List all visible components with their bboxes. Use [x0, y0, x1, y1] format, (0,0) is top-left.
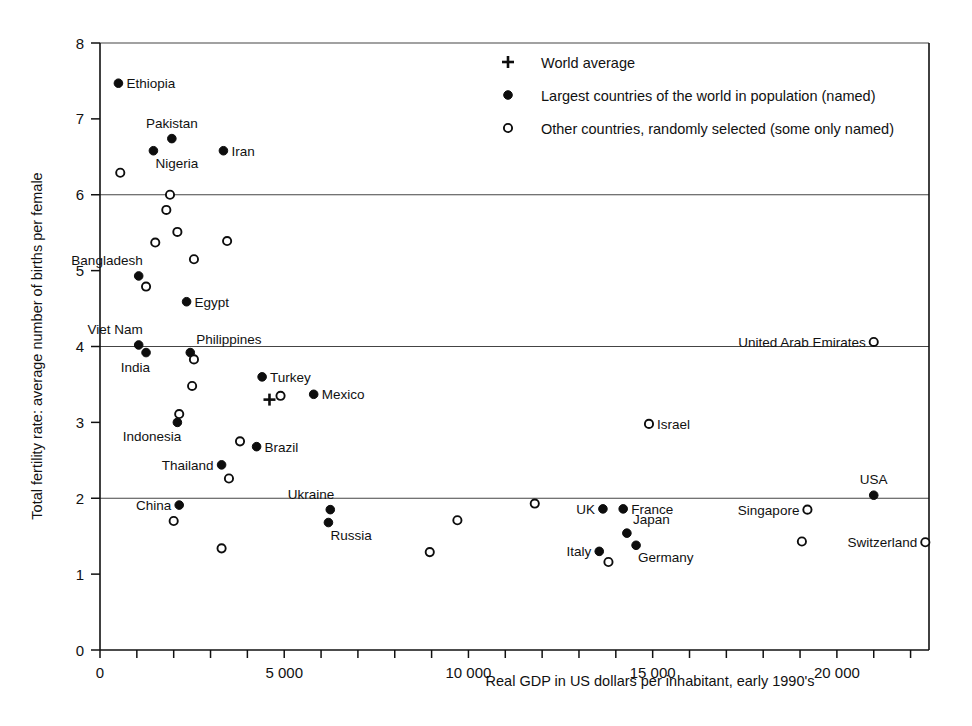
point-label-philippines: Philippines [196, 332, 262, 347]
point-label-turkey: Turkey [270, 370, 311, 385]
data-point-russia [324, 518, 333, 527]
data-point-pakistan [168, 134, 177, 143]
y-tick-label-8: 8 [76, 35, 84, 52]
chart-canvas: 05 00010 00015 00020 000 012345678 Ethio… [0, 0, 972, 726]
legend-label-1: Largest countries of the world in popula… [541, 88, 876, 104]
point-label-usa: USA [860, 472, 888, 487]
point-label-thailand: Thailand [162, 458, 214, 473]
data-point-brazil [252, 442, 261, 451]
x-tick-label-0: 0 [96, 664, 104, 681]
gridlines-group [100, 43, 929, 498]
data-point-unlabeled [175, 410, 183, 418]
point-label-ethiopia: Ethiopia [126, 76, 175, 91]
data-point-thailand [217, 461, 226, 470]
y-tick-label-3: 3 [76, 414, 84, 431]
data-point-unlabeled [217, 544, 225, 552]
y-axis-ticks: 012345678 [76, 35, 100, 659]
data-point-ethiopia [114, 79, 123, 88]
data-point-uk [599, 505, 608, 514]
x-tick-label-10000: 10 000 [445, 664, 491, 681]
x-tick-label-5000: 5 000 [265, 664, 303, 681]
data-point-unlabeled [151, 238, 159, 246]
y-axis-title: Total fertility rate: average number of … [29, 172, 45, 519]
data-point-unlabeled [190, 355, 198, 363]
y-tick-label-6: 6 [76, 186, 84, 203]
data-point-germany [632, 541, 641, 550]
point-label-ukraine: Ukraine [288, 487, 335, 502]
data-point-viet-nam [134, 341, 143, 350]
point-label-japan: Japan [633, 512, 670, 527]
data-point-unlabeled [173, 228, 181, 236]
data-point-unlabeled [426, 548, 434, 556]
data-point-unlabeled [166, 191, 174, 199]
point-label-uk: UK [576, 502, 595, 517]
point-label-egypt: Egypt [195, 295, 230, 310]
data-point-india [142, 348, 151, 357]
point-label-singapore: Singapore [738, 503, 800, 518]
legend-label-0: World average [541, 55, 635, 71]
y-tick-label-2: 2 [76, 490, 84, 507]
data-point-japan [623, 529, 632, 538]
point-label-pakistan: Pakistan [146, 116, 198, 131]
point-label-china: China [136, 498, 172, 513]
data-point-unlabeled [162, 206, 170, 214]
data-point-turkey [258, 373, 267, 382]
point-labels-group: EthiopiaPakistanNigeriaIranBangladeshEgy… [71, 76, 917, 565]
point-label-india: India [121, 360, 151, 375]
data-point-unlabeled [798, 537, 806, 545]
data-point-unlabeled [531, 499, 539, 507]
data-point-unlabeled [170, 517, 178, 525]
point-label-viet-nam: Viet Nam [87, 322, 142, 337]
legend-marker-cross [502, 56, 514, 68]
data-point-unlabeled [225, 474, 233, 482]
point-label-iran: Iran [231, 144, 254, 159]
data-point-unlabeled [188, 382, 196, 390]
data-point-unlabeled [453, 516, 461, 524]
data-point-iran [219, 146, 228, 155]
data-point-indonesia [173, 418, 182, 427]
point-label-switzerland: Switzerland [848, 535, 918, 550]
data-point-usa [869, 491, 878, 500]
data-point-ukraine [326, 505, 335, 514]
data-point-france [619, 505, 628, 514]
point-label-russia: Russia [330, 528, 372, 543]
data-point-united-arab-emirates [870, 338, 878, 346]
fertility-gdp-scatter-chart: 05 00010 00015 00020 000 012345678 Ethio… [0, 0, 972, 726]
data-point-unlabeled [190, 255, 198, 263]
y-tick-label-0: 0 [76, 642, 84, 659]
x-tick-label-20000: 20 000 [814, 664, 860, 681]
data-point-israel [645, 420, 653, 428]
point-label-italy: Italy [566, 544, 591, 559]
legend-label-2: Other countries, randomly selected (some… [541, 121, 894, 137]
data-point-mexico [309, 390, 318, 399]
y-tick-label-7: 7 [76, 110, 84, 127]
data-point-egypt [182, 297, 191, 306]
point-label-nigeria: Nigeria [155, 156, 198, 171]
point-label-united-arab-emirates: United Arab Emirates [738, 335, 866, 350]
data-point-unlabeled [116, 169, 124, 177]
chart-legend: World averageLargest countries of the wo… [502, 55, 894, 137]
y-tick-label-1: 1 [76, 566, 84, 583]
y-tick-label-4: 4 [76, 338, 84, 355]
data-point-unlabeled [276, 392, 284, 400]
point-label-germany: Germany [638, 550, 694, 565]
legend-marker-open [504, 124, 512, 132]
point-label-indonesia: Indonesia [123, 429, 182, 444]
data-point-singapore [803, 506, 811, 514]
data-point-switzerland [921, 538, 929, 546]
data-point-china [175, 501, 184, 510]
point-label-brazil: Brazil [265, 440, 299, 455]
point-label-israel: Israel [657, 417, 690, 432]
point-label-bangladesh: Bangladesh [71, 253, 142, 268]
data-point-unlabeled [223, 237, 231, 245]
data-point-unlabeled [263, 394, 275, 406]
data-point-bangladesh [134, 272, 143, 281]
x-axis-title: Real GDP in US dollars per inhabitant, e… [486, 673, 815, 689]
data-point-unlabeled [142, 282, 150, 290]
data-point-italy [595, 547, 604, 556]
data-point-unlabeled [604, 558, 612, 566]
point-label-mexico: Mexico [322, 387, 365, 402]
data-point-nigeria [149, 146, 158, 155]
legend-marker-filled [504, 91, 513, 100]
data-point-unlabeled [236, 437, 244, 445]
